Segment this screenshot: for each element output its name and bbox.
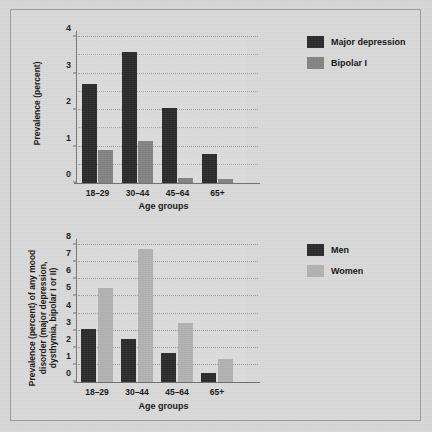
y-tick-mark (73, 346, 76, 347)
plot-area-bottom: 012345678 18–2930–4445–6465+ (76, 245, 246, 382)
y-tick-mark (73, 244, 76, 245)
y-tick-label: 0 (66, 369, 71, 378)
legend-bottom: MenWomen (307, 244, 363, 286)
y-tick-label: 6 (66, 266, 71, 275)
bar-group (82, 37, 113, 183)
legend-color-swatch (307, 265, 324, 277)
y-tick-label: 3 (66, 60, 71, 69)
bar (138, 249, 153, 382)
bar-group (122, 37, 153, 183)
chart-major-depression-bipolar: 01234 18–2930–4445–6465+ Prevalence (per… (0, 10, 432, 215)
x-tick-label: 18–29 (76, 189, 120, 198)
bar (162, 108, 177, 183)
legend-color-swatch (307, 57, 324, 69)
plot-area-top: 01234 18–2930–4445–6465+ (76, 37, 246, 183)
legend-item: Men (307, 244, 363, 256)
figure-page: 01234 18–2930–4445–6465+ Prevalence (per… (0, 0, 432, 432)
x-tick-label: 45–64 (155, 388, 199, 397)
bar (98, 150, 113, 183)
legend-item: Bipolar I (307, 57, 406, 69)
chart-any-mood-disorder-by-sex: 012345678 18–2930–4445–6465+ Prevalence … (0, 222, 432, 422)
y-tick-mark (73, 312, 76, 313)
y-tick-label: 0 (66, 170, 71, 179)
bar (178, 323, 193, 382)
bar (121, 339, 136, 382)
y-tick-mark (73, 278, 76, 279)
y-tick-label: 7 (66, 249, 71, 258)
legend-label: Men (331, 246, 349, 255)
y-tick-mark (73, 182, 76, 183)
bar (161, 353, 176, 382)
x-tick-label: 30–44 (115, 388, 159, 397)
y-tick-label: 2 (66, 334, 71, 343)
x-tick-label: 30–44 (116, 189, 160, 198)
legend-item: Major depression (307, 36, 406, 48)
bar-group (121, 245, 153, 382)
bar (178, 178, 193, 183)
x-axis-line-top (74, 183, 260, 184)
y-tick-mark (73, 381, 76, 382)
legend-label: Major depression (331, 38, 406, 47)
x-axis-line-bottom (74, 382, 260, 383)
bar (138, 141, 153, 183)
x-tick-label: 18–29 (75, 388, 119, 397)
legend-color-swatch (307, 244, 324, 256)
y-axis-line-top (76, 31, 77, 183)
x-axis-title-bottom: Age groups (76, 402, 251, 411)
y-tick-label: 5 (66, 283, 71, 292)
y-tick-mark (73, 36, 76, 37)
y-tick-mark (73, 72, 76, 73)
y-tick-mark (73, 261, 76, 262)
bar (202, 154, 217, 183)
bar (98, 288, 113, 382)
y-tick-mark (73, 295, 76, 296)
bar (218, 359, 233, 382)
y-tick-label: 1 (66, 133, 71, 142)
bar-group (162, 37, 193, 183)
x-tick-label: 65+ (196, 189, 240, 198)
x-axis-title-top: Age groups (76, 202, 251, 211)
y-tick-label: 2 (66, 97, 71, 106)
y-tick-mark (73, 145, 76, 146)
legend-color-swatch (307, 36, 324, 48)
bar (201, 373, 216, 382)
bar (122, 52, 137, 183)
y-tick-mark (73, 109, 76, 110)
y-axis-title-bottom: Prevalence (percent) of any mood disorde… (27, 248, 59, 388)
x-tick-label: 45–64 (156, 189, 200, 198)
bar-group (202, 37, 233, 183)
x-tick-label: 65+ (195, 388, 239, 397)
bar-group (161, 245, 193, 382)
y-tick-mark (73, 363, 76, 364)
y-tick-mark (73, 329, 76, 330)
bar (81, 329, 96, 382)
legend-item: Women (307, 265, 363, 277)
legend-top: Major depressionBipolar I (307, 36, 406, 78)
y-axis-title-top: Prevalence (percent) (32, 43, 43, 163)
y-tick-label: 8 (66, 232, 71, 241)
y-tick-label: 4 (66, 300, 71, 309)
y-tick-label: 1 (66, 351, 71, 360)
legend-label: Bipolar I (331, 59, 367, 68)
bar-group (81, 245, 113, 382)
y-axis-line-bottom (76, 239, 77, 382)
legend-label: Women (331, 267, 363, 276)
y-tick-label: 3 (66, 317, 71, 326)
bar (82, 84, 97, 183)
y-tick-label: 4 (66, 24, 71, 33)
bar (218, 179, 233, 183)
bar-group (201, 245, 233, 382)
